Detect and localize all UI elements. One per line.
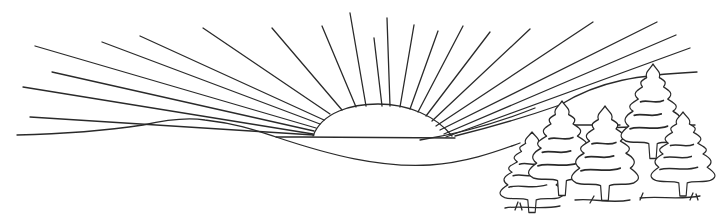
sunrise-illustration: Line-art sunrise over hills with pine tr… [0, 0, 716, 223]
pine-trees [500, 64, 715, 213]
sunrise-drawing [0, 0, 716, 223]
sun-rays [23, 13, 690, 137]
